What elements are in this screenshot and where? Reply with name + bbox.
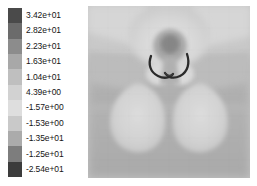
- colorbar-tick-label: 3.42e+01: [26, 11, 61, 20]
- colorbar-swatch: [8, 23, 22, 38]
- colorbar-tick-label: -1.35e+01: [26, 134, 64, 143]
- colorbar-tick-label: -1.57e+00: [26, 103, 64, 112]
- contour-core-inner: [161, 35, 179, 53]
- colorbar-tick-label: -2.54e+01: [26, 165, 64, 174]
- colorbar-tick-label: -1.53e+00: [26, 119, 64, 128]
- colorbar-swatch: [8, 54, 22, 69]
- colorbar-swatch: [8, 69, 22, 84]
- colorbar-tick-label: -1.25e+01: [26, 150, 64, 159]
- colorbar-swatch: [8, 8, 22, 23]
- colorbar-swatch: [8, 39, 22, 54]
- colorbar-swatch: [8, 116, 22, 131]
- contour-plot-area: [88, 6, 250, 178]
- colorbar-swatch: [8, 131, 22, 146]
- colorbar-swatch: [8, 162, 22, 177]
- contour-field: [88, 6, 250, 178]
- colorbar-swatch: [8, 85, 22, 100]
- colorbar: 3.42e+01 2.82e+01 2.23e+01 1.63e+01 1.04…: [8, 8, 84, 178]
- colorbar-swatch: [8, 100, 22, 115]
- contour-figure: 3.42e+01 2.82e+01 2.23e+01 1.63e+01 1.04…: [0, 0, 257, 186]
- colorbar-tick-labels: 3.42e+01 2.82e+01 2.23e+01 1.63e+01 1.04…: [26, 5, 84, 181]
- colorbar-tick-label: 2.82e+01: [26, 26, 61, 35]
- colorbar-tick-label: 4.39e+00: [26, 88, 61, 97]
- colorbar-swatch-strip: [8, 8, 22, 177]
- colorbar-tick-label: 2.23e+01: [26, 42, 61, 51]
- colorbar-tick-label: 1.63e+01: [26, 57, 61, 66]
- colorbar-swatch: [8, 146, 22, 161]
- colorbar-tick-label: 1.04e+01: [26, 73, 61, 82]
